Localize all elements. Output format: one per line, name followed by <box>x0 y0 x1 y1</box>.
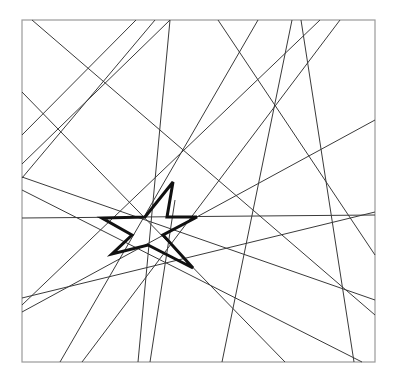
diagram-canvas <box>0 0 400 387</box>
distractor-line <box>301 20 354 362</box>
square-frame <box>22 20 375 362</box>
distractor-line <box>218 20 375 255</box>
random-lines-group <box>22 20 375 362</box>
distractor-line <box>22 177 375 300</box>
distractor-line <box>22 120 375 312</box>
hidden-star-shape <box>102 182 197 268</box>
distractor-line <box>82 20 340 362</box>
distractor-line <box>22 20 136 135</box>
distractor-line <box>22 20 155 178</box>
distractor-line <box>60 20 258 362</box>
distractor-line <box>22 92 285 362</box>
distractor-line <box>150 200 175 362</box>
distractor-line <box>222 20 292 362</box>
distractor-line <box>22 20 170 164</box>
distractor-line <box>22 20 320 305</box>
